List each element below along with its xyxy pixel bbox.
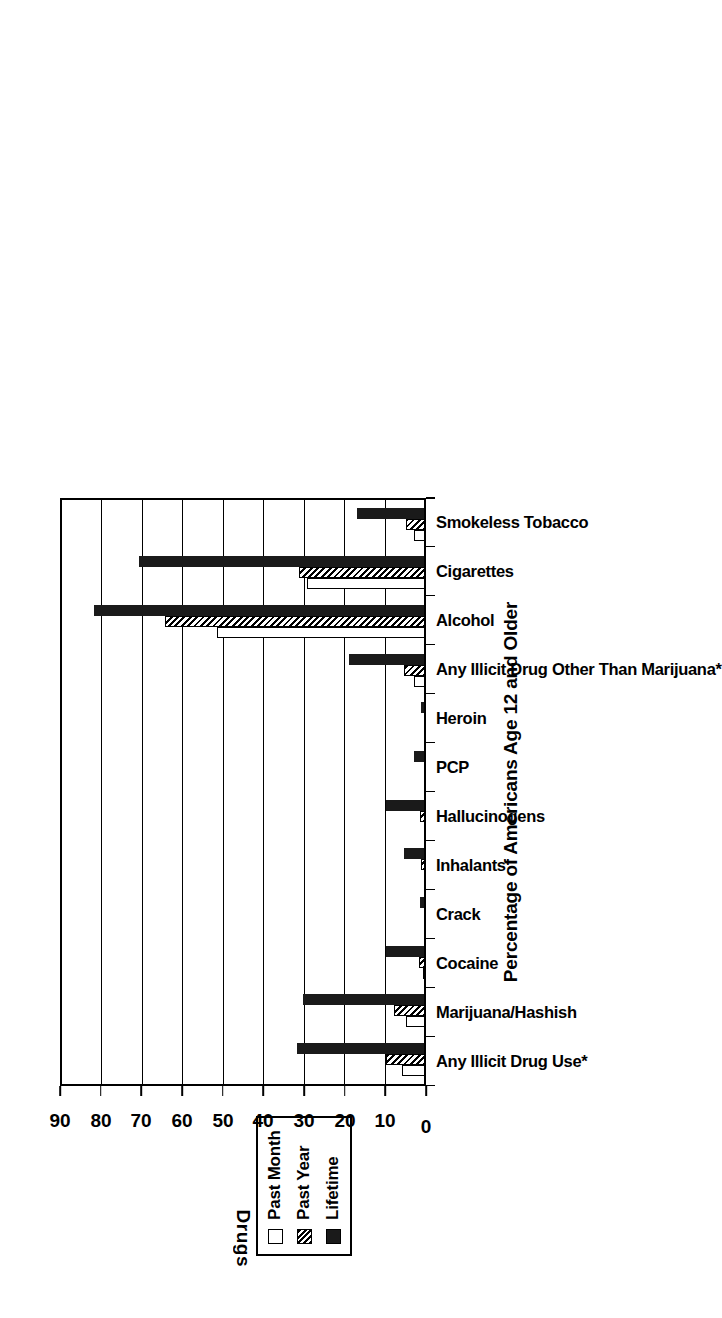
category-label: PCP xyxy=(436,758,469,777)
category-label-cell: Inhalants xyxy=(432,841,702,890)
category-label-cell: Any Illicit Drug Other Than Marijuana* xyxy=(432,645,702,694)
category-label: Alcohol xyxy=(436,611,494,630)
value-tick-mark xyxy=(263,1086,265,1096)
bar xyxy=(94,605,426,616)
bar xyxy=(297,1043,426,1054)
category-axis-title: Drugs xyxy=(60,1218,426,1258)
bar-group xyxy=(62,792,426,841)
bar-group xyxy=(62,695,426,744)
value-tick-label: 60 xyxy=(171,1111,193,1132)
legend-label: Past Year xyxy=(294,1146,314,1220)
category-label: Crack xyxy=(436,905,480,924)
bar-group xyxy=(62,743,426,792)
bar xyxy=(303,995,426,1006)
value-tick-mark xyxy=(141,1086,143,1096)
bar xyxy=(386,1054,426,1065)
category-label: Any Illicit Drug Other Than Marijuana* xyxy=(436,660,722,679)
plot-area xyxy=(60,498,426,1086)
category-label: Heroin xyxy=(436,709,486,728)
value-tick-mark xyxy=(425,1086,427,1096)
category-label-cell: Marijuana/Hashish xyxy=(432,988,702,1037)
category-label-cell: PCP xyxy=(432,743,702,792)
category-label: Cigarettes xyxy=(436,562,514,581)
bar xyxy=(386,800,426,811)
category-label-cell: Heroin xyxy=(432,694,702,743)
value-tick-label: 10 xyxy=(374,1111,396,1132)
legend-label: Past Month xyxy=(265,1130,285,1220)
category-label-cell: Crack xyxy=(432,890,702,939)
bar xyxy=(406,1017,426,1028)
value-tick-label: 90 xyxy=(49,1111,71,1132)
value-tick-label: 80 xyxy=(90,1111,112,1132)
category-label: Smokeless Tobacco xyxy=(436,513,588,532)
bar xyxy=(307,578,426,589)
category-label-cell: Alcohol xyxy=(432,596,702,645)
bar xyxy=(386,946,426,957)
value-tick-label: 50 xyxy=(212,1111,234,1132)
bar xyxy=(394,1006,426,1017)
bar xyxy=(165,616,426,627)
value-tick-mark xyxy=(385,1086,387,1096)
legend-label: Lifetime xyxy=(323,1156,343,1220)
bar-group xyxy=(62,889,426,938)
category-label-cell: Cocaine xyxy=(432,939,702,988)
bar-group xyxy=(62,841,426,890)
bar-group xyxy=(62,549,426,598)
category-label: Marijuana/Hashish xyxy=(436,1003,577,1022)
bar xyxy=(217,627,426,638)
value-tick-label: 0 xyxy=(415,1121,437,1132)
bar xyxy=(357,508,426,519)
value-tick-label: 70 xyxy=(130,1111,152,1132)
bar-group xyxy=(62,987,426,1036)
category-label-cell: Cigarettes xyxy=(432,547,702,596)
category-label: Inhalants xyxy=(436,856,506,875)
bar-group xyxy=(62,597,426,646)
bar xyxy=(402,1065,426,1076)
bar xyxy=(299,567,426,578)
bar xyxy=(139,556,426,567)
bar xyxy=(406,519,426,530)
bar-series-container xyxy=(62,500,426,1084)
bar xyxy=(404,848,426,859)
bar-group xyxy=(62,938,426,987)
category-label-cell: Smokeless Tobacco xyxy=(432,498,702,547)
value-tick-mark xyxy=(222,1086,224,1096)
category-label-cell: Hallucinogens xyxy=(432,792,702,841)
category-label: Cocaine xyxy=(436,954,498,973)
bar xyxy=(404,665,426,676)
category-label-cell: Any Illicit Drug Use* xyxy=(432,1037,702,1086)
bar-group xyxy=(62,500,426,549)
bar-group xyxy=(62,646,426,695)
value-tick-mark xyxy=(100,1086,102,1096)
value-tick-mark xyxy=(344,1086,346,1096)
bar xyxy=(349,654,426,665)
bar-group xyxy=(62,1035,426,1084)
plot-frame xyxy=(60,498,426,1086)
value-tick-mark xyxy=(181,1086,183,1096)
value-tick-mark xyxy=(59,1086,61,1096)
category-label: Hallucinogens xyxy=(436,807,545,826)
category-label: Any Illicit Drug Use* xyxy=(436,1052,587,1071)
value-tick-mark xyxy=(303,1086,305,1096)
category-labels: Any Illicit Drug Use*Marijuana/HashishCo… xyxy=(432,498,702,1086)
